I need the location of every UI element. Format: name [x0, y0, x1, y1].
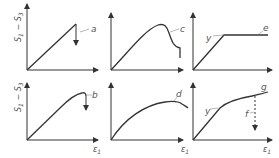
yield-label-g: y [204, 106, 211, 116]
leader-c [170, 29, 179, 32]
y-axis-label-top: S1 − S3 [14, 12, 24, 42]
panel-b [27, 83, 98, 140]
curve-a [27, 24, 76, 70]
x-axis-label-d: ε1 [181, 145, 189, 155]
label-b: b [92, 90, 98, 100]
panel-c [111, 13, 183, 70]
panel-a [27, 4, 98, 70]
panel-e [193, 13, 272, 70]
label-c: c [180, 24, 185, 34]
label-d: d [176, 89, 182, 99]
x-axis-label-g: ε1 [263, 145, 271, 155]
svg-text:S1 − S3: S1 − S3 [14, 12, 24, 42]
label-a: a [91, 24, 97, 34]
curve-c [111, 24, 180, 70]
leader-a [80, 29, 89, 32]
failure-label-f: f [245, 109, 250, 119]
leader-y [210, 108, 218, 109]
leader-y [213, 35, 223, 36]
label-e: e [263, 23, 269, 33]
svg-text:S1 − S3: S1 − S3 [14, 82, 24, 112]
curve-e [193, 35, 268, 70]
curve-b [27, 93, 86, 140]
stress-strain-curves-figure: S1 − S3 S1 − S3 a c y e b [0, 0, 279, 158]
yield-label-e: y [205, 33, 212, 43]
y-axis-label-bottom: S1 − S3 [14, 82, 24, 112]
label-g: g [261, 82, 267, 92]
x-axis-label-b: ε1 [93, 145, 101, 155]
leader-f [250, 112, 254, 113]
curve-g [193, 92, 268, 140]
curve-d [111, 101, 188, 140]
